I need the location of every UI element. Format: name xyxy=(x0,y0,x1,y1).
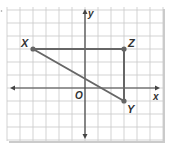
point-Z xyxy=(121,46,126,51)
stray-dot xyxy=(1,10,3,12)
point-label-x: X xyxy=(20,37,29,49)
y-axis-label: y xyxy=(87,8,94,19)
origin-label: O xyxy=(75,90,83,101)
coordinate-plane: XZYOxy xyxy=(0,0,169,146)
point-label-z: Z xyxy=(127,37,136,49)
point-X xyxy=(30,46,35,51)
x-axis-label: x xyxy=(152,91,159,102)
point-Y xyxy=(121,98,126,103)
